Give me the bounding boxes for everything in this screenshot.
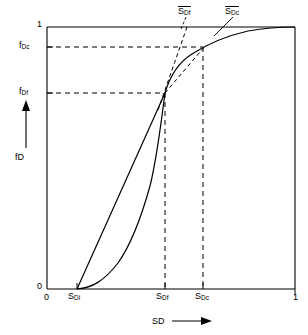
x-tick-label-SDc: SDc: [195, 292, 209, 302]
annotation-Sbar-Df-overbar: SDf: [178, 6, 191, 17]
y-axis-title: fD: [15, 152, 24, 162]
axes-frame: [47, 27, 295, 289]
y-tick-fDc-sub: Dc: [22, 43, 30, 50]
x-axis-arrow: [172, 317, 212, 325]
y-tick-label-fDf: fDf: [19, 87, 28, 97]
y-axis-min-label: 0: [37, 281, 42, 291]
x-tick-SDi-sub: Di: [74, 294, 80, 301]
annotation-Sbar-Dc: SDc: [225, 6, 239, 17]
x-tick-SDf-sub: Df: [162, 294, 169, 301]
y-axis-arrow: [22, 100, 30, 148]
x-axis-title-sub: D: [158, 316, 165, 326]
secant-to-Sdc-dashed: [165, 45, 206, 93]
x-axis-min-label: 0: [44, 292, 49, 302]
y-axis-max-label: 1: [37, 19, 42, 29]
y-tick-label-fDc: fDc: [19, 41, 30, 51]
x-tick-SDc-sub: Dc: [201, 294, 209, 301]
x-axis-max-label: 1: [293, 292, 298, 302]
y-tick-fDf-sub: Df: [22, 89, 29, 96]
x-axis-title: SD: [152, 316, 165, 326]
annotation-Sbar-Df-sub: Df: [184, 9, 191, 16]
fractional-flow-curve: [77, 27, 295, 289]
y-axis-title-sub: D: [18, 152, 25, 162]
annotation-Sbar-Dc-overbar: SDc: [225, 6, 239, 17]
annotation-Sbar-Dc-sub: Dc: [231, 9, 239, 16]
fractional-flow-figure: 1 0 fDc fDf fD 0 1 SDi SDf SDc SD SDf SD…: [0, 0, 308, 335]
x-tick-label-SDf: SDf: [156, 292, 169, 302]
x-tick-label-SDi: SDi: [68, 292, 80, 302]
plot-canvas: [0, 0, 308, 335]
y-axis-ticks: [47, 47, 53, 93]
annotation-Sbar-Df: SDf: [178, 6, 191, 17]
